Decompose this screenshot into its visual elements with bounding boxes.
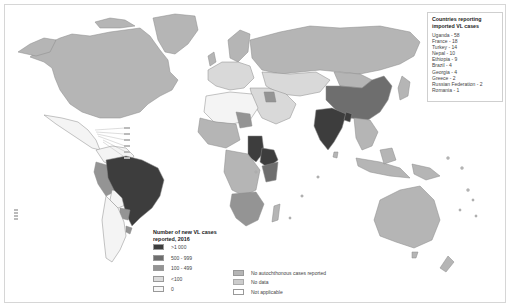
russia — [250, 26, 420, 74]
legend-row-zero: 0 — [153, 284, 233, 295]
tasmania — [412, 252, 418, 258]
case-scale-legend: Number of new VL cases reported, 2016 >1… — [153, 229, 233, 295]
legend-label: 0 — [171, 286, 174, 292]
new-zealand — [440, 256, 454, 272]
uruguay — [126, 226, 132, 234]
canada-islands — [95, 18, 135, 28]
swatch — [153, 276, 164, 282]
southern-africa — [230, 192, 264, 226]
australia — [374, 186, 440, 248]
legend-row-not-applicable: Not applicable — [233, 287, 326, 297]
mexico — [44, 115, 100, 150]
chad-niger — [236, 112, 252, 128]
swatch — [233, 279, 244, 285]
papua — [412, 164, 440, 180]
legend-label: No data — [251, 279, 269, 285]
western-europe — [208, 62, 254, 90]
swatch — [233, 270, 244, 276]
legend-row-gt-1000: >1 000 — [153, 242, 233, 253]
legend-label: 500 - 999 — [171, 255, 192, 261]
greenland — [153, 14, 198, 54]
iraq — [264, 92, 276, 102]
legend-row-lt-100: <100 — [153, 274, 233, 285]
madagascar — [272, 204, 280, 222]
sri-lanka — [333, 152, 338, 158]
legend-row-100-499: 100 - 499 — [153, 263, 233, 274]
inset-marks — [14, 209, 18, 220]
se-asia — [354, 118, 378, 150]
legend-label: >1 000 — [171, 244, 186, 250]
legend-label: 100 - 499 — [171, 265, 192, 271]
legend-row-500-999: 500 - 999 — [153, 253, 233, 264]
legend-label: No autochthonous cases reported — [251, 270, 326, 276]
status-legend: No autochthonous cases reported No data … — [233, 268, 326, 297]
swatch — [153, 244, 164, 250]
scale-legend-title: Number of new VL cases reported, 2016 — [153, 229, 233, 242]
imported-item: Romania - 1 — [432, 87, 498, 93]
japan — [398, 76, 410, 100]
swatch — [153, 265, 164, 271]
swatch — [153, 255, 164, 261]
uk — [208, 52, 216, 66]
legend-label: Not applicable — [251, 289, 283, 295]
scandinavia — [228, 30, 250, 62]
legend-row-no-data: No data — [233, 278, 326, 288]
imported-legend-title: Countries reporting imported VL cases — [432, 16, 498, 29]
borneo — [380, 148, 396, 164]
swatch — [153, 286, 164, 292]
legend-label: <100 — [171, 276, 182, 282]
india — [314, 108, 346, 150]
imported-cases-legend: Countries reporting imported VL cases Ug… — [427, 12, 503, 102]
swatch — [233, 289, 244, 295]
legend-row-no-autochthonous: No autochthonous cases reported — [233, 268, 326, 278]
